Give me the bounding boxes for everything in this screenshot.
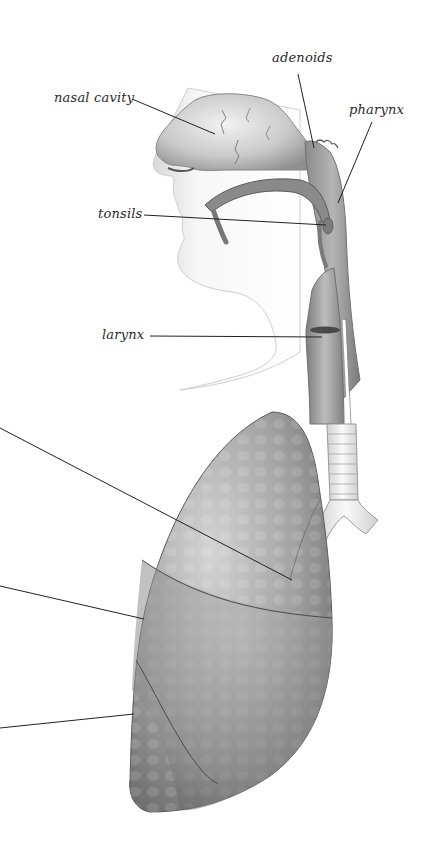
label-pharynx: pharynx [349,102,404,117]
anatomy-illustration [0,0,425,862]
label-larynx: larynx [102,327,144,342]
label-adenoids: adenoids [272,50,333,65]
leader-lower-lobe [0,714,134,728]
label-nasal-cavity: nasal cavity [54,90,134,105]
label-tonsils: tonsils [98,206,142,221]
lung [130,412,332,812]
leader-pharynx [338,122,372,203]
respiratory-diagram: adenoids nasal cavity pharynx tonsils la… [0,0,425,862]
leader-middle-lobe [0,586,144,619]
